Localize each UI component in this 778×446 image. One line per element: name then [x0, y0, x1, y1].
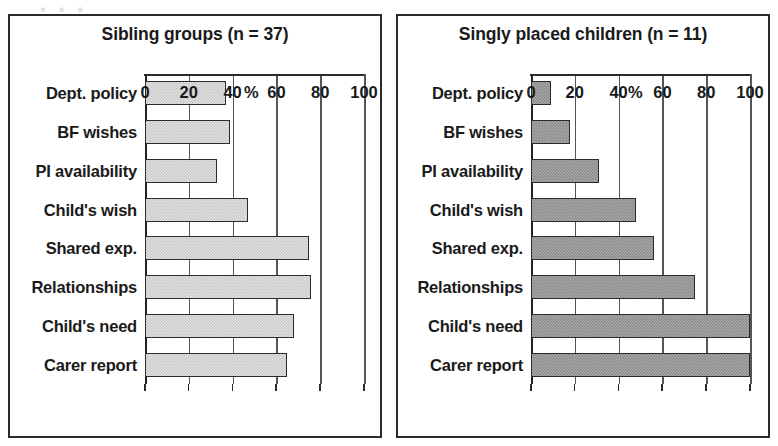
- category-label: PI availability: [35, 161, 137, 180]
- category-label: Child's need: [42, 316, 137, 335]
- category-label: BF wishes: [443, 123, 523, 142]
- plot-area-right: Dept. policyBF wishesPI availabilityChil…: [398, 58, 764, 436]
- panel-title-left: Sibling groups (n = 37): [10, 24, 380, 45]
- x-tick-40: [618, 384, 620, 391]
- gridline-100: [750, 74, 752, 384]
- x-tick-label-0: 0: [140, 83, 149, 102]
- category-label: Dept. policy: [432, 84, 523, 103]
- x-tick-label-100: 100: [736, 83, 764, 102]
- x-axis-ticks-left: 020406080100: [145, 74, 364, 384]
- category-label: Child's wish: [430, 200, 523, 219]
- panel-singly-placed-children: Singly placed children (n = 11) Dept. po…: [396, 14, 770, 438]
- panel-title-right: Singly placed children (n = 11): [398, 24, 768, 45]
- x-tick-label-80: 80: [311, 83, 329, 102]
- category-label: Child's need: [428, 316, 523, 335]
- x-tick-label-100: 100: [350, 83, 378, 102]
- x-tick-label-80: 80: [697, 83, 715, 102]
- grid-area-right: Dept. policyBF wishesPI availabilityChil…: [531, 74, 750, 384]
- category-label: Carer report: [430, 355, 523, 374]
- x-tick-label-0: 0: [526, 83, 535, 102]
- category-label: Shared exp.: [46, 239, 137, 258]
- x-tick-label-20: 20: [566, 83, 584, 102]
- category-label: Child's wish: [44, 200, 137, 219]
- x-tick-label-20: 20: [180, 83, 198, 102]
- x-tick-0: [144, 384, 146, 391]
- x-tick-100: [749, 384, 751, 391]
- category-label: PI availability: [421, 161, 523, 180]
- x-tick-60: [661, 384, 663, 391]
- panel-sibling-groups: Sibling groups (n = 37) Dept. policyBF w…: [8, 14, 382, 438]
- category-label: Relationships: [31, 278, 137, 297]
- x-tick-label-40: 40: [223, 83, 241, 102]
- x-tick-20: [574, 384, 576, 391]
- category-label: Shared exp.: [432, 239, 523, 258]
- x-tick-label-40: 40: [609, 83, 627, 102]
- x-tick-label-60: 60: [653, 83, 671, 102]
- x-tick-80: [705, 384, 707, 391]
- axis-unit-right: %: [628, 83, 643, 102]
- x-tick-label-60: 60: [267, 83, 285, 102]
- x-axis-ticks-right: 020406080100: [531, 74, 750, 384]
- plot-area-left: Dept. policyBF wishesPI availabilityChil…: [10, 58, 376, 436]
- x-tick-80: [319, 384, 321, 391]
- category-label: Dept. policy: [46, 84, 137, 103]
- x-tick-60: [275, 384, 277, 391]
- x-tick-20: [188, 384, 190, 391]
- category-label: BF wishes: [57, 123, 137, 142]
- gridline-100: [364, 74, 366, 384]
- figure-two-panel-bar-charts: Sibling groups (n = 37) Dept. policyBF w…: [0, 0, 778, 446]
- axis-unit-left: %: [244, 83, 259, 102]
- grid-area-left: Dept. policyBF wishesPI availabilityChil…: [145, 74, 364, 384]
- x-tick-40: [232, 384, 234, 391]
- x-tick-100: [363, 384, 365, 391]
- category-label: Carer report: [44, 355, 137, 374]
- category-label: Relationships: [417, 278, 523, 297]
- x-tick-0: [530, 384, 532, 391]
